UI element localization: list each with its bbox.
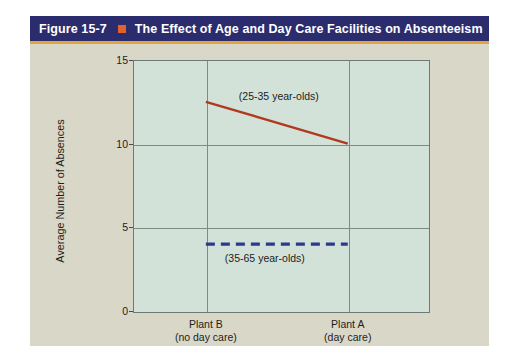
x-axis-label-plant-a: Plant A (day care) (273, 318, 423, 344)
title-bar-accent-line (30, 41, 489, 44)
y-axis-tick-10: 10 (98, 138, 128, 150)
x-axis-label-plant-a-sub: (day care) (273, 331, 423, 344)
y-axis-tick-15: 15 (98, 54, 128, 66)
figure-number: Figure 15-7 (39, 22, 107, 36)
x-axis-label-plant-a-name: Plant A (273, 318, 423, 331)
y-axis-tick-mark-5 (129, 227, 133, 228)
figure-screenshot: Figure 15-7 The Effect of Age and Day Ca… (0, 0, 517, 364)
series-line-25-35 (206, 102, 348, 144)
figure-title-bar: Figure 15-7 The Effect of Age and Day Ca… (30, 16, 489, 41)
y-axis-tick-mark-15 (129, 60, 133, 61)
y-axis-tick-labels: 051015 (96, 60, 128, 311)
x-axis-label-plant-b-sub: (no day care) (131, 331, 281, 344)
y-axis-tick-5: 5 (98, 221, 128, 233)
x-axis-label-plant-b-name: Plant B (131, 318, 281, 331)
y-axis-tick-mark-0 (129, 311, 133, 312)
figure-title: The Effect of Age and Day Care Facilitie… (135, 22, 483, 36)
x-axis-label-plant-b: Plant B (no day care) (131, 318, 281, 344)
y-axis-title: Average Number of Absences (54, 96, 66, 286)
orange-square-icon (118, 25, 126, 33)
y-axis-tick-0: 0 (98, 305, 128, 317)
series-annotation-25-35: (25-35 year-olds) (239, 90, 319, 102)
series-annotation-35-65: (35-65 year-olds) (225, 252, 305, 264)
y-axis-tick-mark-10 (129, 144, 133, 145)
